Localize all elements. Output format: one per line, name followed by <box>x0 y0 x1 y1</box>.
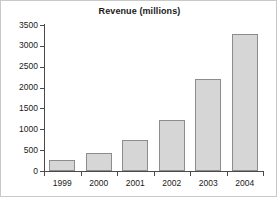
bar-2004 <box>232 34 258 171</box>
y-axis-tick-label: 3000 <box>2 41 38 50</box>
x-axis-tick-label-2004: 2004 <box>225 179 265 188</box>
x-axis-tick-label-2002: 2002 <box>152 179 192 188</box>
y-axis-tick-label: 500 <box>2 146 38 155</box>
y-axis-tick-label: 1500 <box>2 104 38 113</box>
chart-figure: Revenue (millions) 050010001500200025003… <box>0 0 277 197</box>
y-axis-tick <box>40 108 44 109</box>
y-axis-tick-label: 2500 <box>2 62 38 71</box>
x-axis-tick <box>44 172 45 176</box>
x-axis-tick-label-2003: 2003 <box>188 179 228 188</box>
y-axis-tick-label: 0 <box>2 167 38 176</box>
y-axis-tick-label: 3500 <box>2 21 38 30</box>
x-axis-tick-label-1999: 1999 <box>42 179 82 188</box>
chart-title: Revenue (millions) <box>1 6 277 16</box>
x-axis-tick <box>263 172 264 176</box>
y-axis-tick-label: 2000 <box>2 83 38 92</box>
y-axis-tick <box>40 46 44 47</box>
y-axis-tick <box>40 25 44 26</box>
x-axis-tick <box>190 172 191 176</box>
x-axis-tick-label-2001: 2001 <box>115 179 155 188</box>
bar-2002 <box>159 120 185 171</box>
y-axis-tick <box>40 129 44 130</box>
x-axis-tick-label-2000: 2000 <box>79 179 119 188</box>
y-axis-tick <box>40 150 44 151</box>
bar-1999 <box>49 160 75 171</box>
x-axis-tick <box>154 172 155 176</box>
y-axis-tick-labels: 0500100015002000250030003500 <box>1 1 38 197</box>
bar-2003 <box>195 79 221 171</box>
x-axis-tick <box>117 172 118 176</box>
y-axis-line <box>44 24 45 172</box>
y-axis-tick <box>40 67 44 68</box>
x-axis-tick <box>81 172 82 176</box>
y-axis-tick-label: 1000 <box>2 125 38 134</box>
bar-2000 <box>86 153 112 171</box>
x-axis-tick <box>227 172 228 176</box>
bar-2001 <box>122 140 148 171</box>
y-axis-tick <box>40 88 44 89</box>
